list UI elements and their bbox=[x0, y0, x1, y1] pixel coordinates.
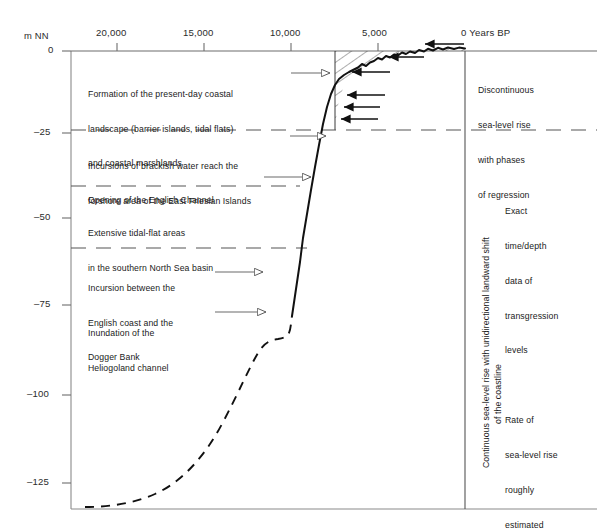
annotation-line: Formation of the present-day coastal bbox=[88, 89, 233, 101]
annotation-continuous-rise-line1: Continuous sea-level rise with unidirect… bbox=[481, 237, 493, 468]
annotation-line: with phases bbox=[478, 155, 534, 167]
annotation-line: roughly bbox=[505, 485, 558, 497]
annotation-line: time/depth bbox=[505, 241, 558, 253]
annotation-line: Incursion between the bbox=[88, 283, 175, 295]
y-tick-label-minus25: –25 bbox=[34, 126, 51, 137]
annotation-line: Rate of bbox=[505, 415, 558, 427]
x-tick-label-15000: 15,000 bbox=[183, 27, 214, 38]
annotation-line: sea-level rise bbox=[478, 120, 534, 132]
sea-level-curve-figure: m NN 20,000 15,000 10,000 5,000 0 Years … bbox=[0, 0, 598, 528]
y-axis-name: m NN bbox=[24, 30, 49, 41]
annotation-line: Incursions of brackish water reach the bbox=[88, 161, 251, 173]
annotation-continuous-rise-line2: of the coastline bbox=[493, 364, 505, 424]
x-tick-label-5000: 5,000 bbox=[362, 27, 387, 38]
x-tick-label-0-years-bp: 0 Years BP bbox=[461, 27, 510, 38]
annotation-line: estimated bbox=[505, 520, 558, 528]
y-tick-label-minus125: –125 bbox=[27, 476, 49, 487]
annotation-line: Discontinuous bbox=[478, 85, 534, 97]
annotation-exact-data: Exact time/depth data of transgression l… bbox=[505, 183, 558, 380]
y-tick-label-minus75: –75 bbox=[34, 298, 51, 309]
annotation-line: Inundation of the bbox=[88, 328, 169, 340]
annotation-line: Exact bbox=[505, 206, 558, 218]
y-axis-ticks bbox=[62, 51, 71, 483]
annotation-line: landscape (barrier islands, tidal flats) bbox=[88, 124, 233, 136]
hatched-region bbox=[335, 48, 465, 130]
x-axis-ticks bbox=[117, 43, 378, 51]
annotation-line: Extensive tidal-flat areas bbox=[88, 228, 213, 240]
annotation-line: Heliogoland channel bbox=[88, 363, 169, 375]
y-tick-label-0: 0 bbox=[48, 44, 54, 55]
annotation-rate-estimated: Rate of sea-level rise roughly estimated bbox=[505, 392, 558, 528]
y-tick-label-minus100: –100 bbox=[27, 388, 49, 399]
annotation-line: sea-level rise bbox=[505, 450, 558, 462]
x-tick-label-20000: 20,000 bbox=[96, 27, 127, 38]
annotation-line: data of bbox=[505, 276, 558, 288]
sea-level-curve-solid bbox=[292, 48, 465, 317]
annotation-line: levels bbox=[505, 345, 558, 357]
x-tick-label-10000: 10,000 bbox=[270, 27, 301, 38]
annotation-heliogoland-channel: Inundation of the Heliogoland channel bbox=[88, 305, 169, 397]
annotation-line: transgression bbox=[505, 311, 558, 323]
y-tick-label-minus50: –50 bbox=[34, 211, 51, 222]
